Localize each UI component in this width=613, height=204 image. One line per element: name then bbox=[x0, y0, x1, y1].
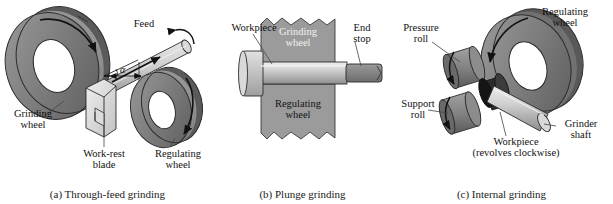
label-pressure-roll-line1: Pressure bbox=[403, 22, 439, 33]
label-grinding-wheel: Grinding wheel bbox=[263, 26, 333, 48]
label-grinding-wheel: Grinding wheel bbox=[2, 108, 64, 130]
label-regulating-wheel: Regulating wheel bbox=[525, 6, 605, 28]
end-stop-leader bbox=[355, 42, 361, 66]
label-grinding-wheel-line2: wheel bbox=[20, 119, 45, 130]
caption-panel-a: (a) Through-feed grinding bbox=[0, 188, 215, 200]
label-pressure-roll-line2: roll bbox=[414, 33, 429, 44]
panel-internal-grinding: Pressure roll Regulating wheel Support r… bbox=[390, 0, 613, 204]
label-grinder-shaft-line2: shaft bbox=[571, 129, 591, 140]
centerless-grinding-figure: Grinding wheel Feed α Work-rest blade Re… bbox=[0, 0, 613, 204]
label-workpiece: Workpiece (revolves clockwise) bbox=[466, 136, 566, 158]
label-support-roll-line1: Support bbox=[401, 98, 434, 109]
panel-through-feed-grinding: Grinding wheel Feed α Work-rest blade Re… bbox=[0, 0, 215, 204]
caption-panel-c: (c) Internal grinding bbox=[390, 188, 613, 200]
panel-plunge-grinding: Workpiece Grinding wheel End stop Regula… bbox=[215, 0, 390, 204]
label-regulating-wheel: Regulating wheel bbox=[142, 148, 214, 170]
label-grinding-wheel-line1: Grinding bbox=[279, 26, 317, 37]
end-stop-shape bbox=[346, 64, 382, 82]
label-regulating-wheel: Regulating wheel bbox=[261, 98, 335, 120]
label-work-rest-blade-line1: Work-rest bbox=[83, 148, 125, 159]
label-end-stop-line1: End bbox=[354, 22, 371, 33]
label-support-roll: Support roll bbox=[390, 98, 446, 120]
label-grinder-shaft-line1: Grinder bbox=[565, 118, 598, 129]
label-regulating-wheel-line1: Regulating bbox=[275, 98, 321, 109]
label-regulating-wheel-line1: Regulating bbox=[542, 6, 588, 17]
label-workpiece-line1: Workpiece bbox=[493, 136, 538, 147]
label-feed: Feed bbox=[124, 18, 164, 29]
label-regulating-wheel-line2: wheel bbox=[552, 17, 577, 28]
label-pressure-roll: Pressure roll bbox=[390, 22, 452, 44]
label-grinding-wheel-line2: wheel bbox=[285, 37, 310, 48]
label-support-roll-line2: roll bbox=[411, 109, 426, 120]
label-angle-alpha: α bbox=[120, 64, 125, 75]
label-workpiece-revolves-clockwise: (revolves clockwise) bbox=[472, 147, 559, 158]
label-work-rest-blade-line2: blade bbox=[93, 159, 116, 170]
label-regulating-wheel-line2: wheel bbox=[285, 109, 310, 120]
workpiece-leader bbox=[500, 112, 506, 136]
work-rest-blade-shape bbox=[86, 79, 116, 137]
label-regulating-wheel-line2: wheel bbox=[165, 159, 190, 170]
label-grinding-wheel-line1: Grinding bbox=[14, 108, 52, 119]
label-regulating-wheel-line1: Regulating bbox=[155, 148, 201, 159]
label-work-rest-blade: Work-rest blade bbox=[66, 148, 142, 170]
panel-a-drawing bbox=[0, 0, 215, 204]
label-end-stop: End stop bbox=[341, 22, 383, 44]
caption-panel-b: (b) Plunge grinding bbox=[215, 188, 390, 200]
label-end-stop-line2: stop bbox=[353, 33, 371, 44]
